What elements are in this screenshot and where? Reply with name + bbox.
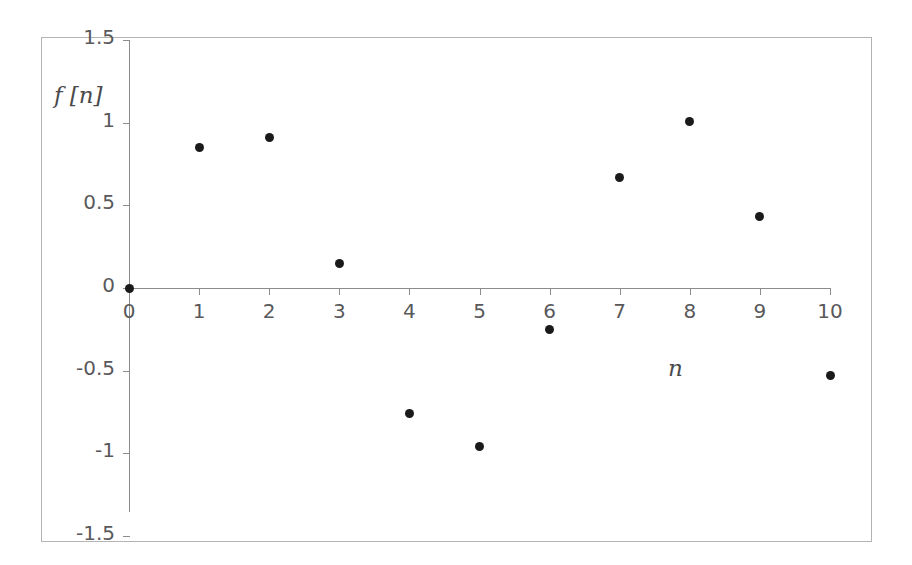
chart-screenshot: 1.510.50-0.5-1-1.5 012345678910 f [n] n: [0, 0, 912, 565]
chart-frame: [41, 37, 872, 542]
